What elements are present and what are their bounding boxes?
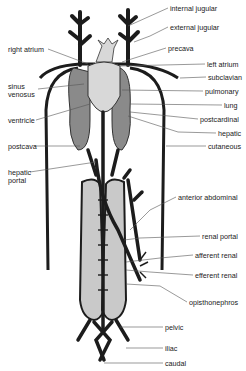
label-precava: precava <box>168 45 194 53</box>
right-lung <box>69 68 90 150</box>
label-cutaneous: cutaneous <box>208 143 241 151</box>
conus-arteriosus <box>96 38 118 62</box>
label-external-jugular: external jugular <box>170 24 219 32</box>
label-anterior-abdominal: anterior abdominal <box>178 194 238 202</box>
label-renal-portal: renal portal <box>202 233 238 241</box>
label-opisthonephros: opisthonephros <box>189 299 238 307</box>
label-postcardinal: postcardinal <box>200 116 239 124</box>
diagram-canvas <box>0 0 246 371</box>
label-postcava: postcava <box>8 143 37 151</box>
label-lung: lung <box>224 102 238 110</box>
label-hepatic-portal: hepatic portal <box>8 169 31 185</box>
label-pelvic: pelvic <box>165 324 183 332</box>
label-internal-jugular: internal jugular <box>170 5 217 13</box>
label-pulmonary: pulmonary <box>205 88 239 96</box>
label-afferent-renal: afferent renal <box>195 252 237 260</box>
label-efferent-renal: efferent renal <box>195 272 237 280</box>
label-ventricle: ventricle <box>8 117 35 125</box>
label-caudal: caudal <box>165 360 186 368</box>
label-sinus-venosus: sinus venosus <box>8 83 35 99</box>
label-subclavian: subclavian <box>208 74 242 82</box>
label-hepatic: hepatic <box>218 130 241 138</box>
label-iliac: iliac <box>165 345 177 353</box>
label-right-atrium: right atrium <box>8 46 44 54</box>
heart <box>88 62 120 112</box>
label-left-atrium: left atrium <box>207 61 239 69</box>
